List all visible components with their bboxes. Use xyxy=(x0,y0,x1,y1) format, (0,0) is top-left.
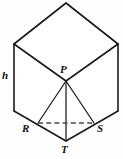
geometry-figure: h P R S T xyxy=(0,0,123,159)
label-vertex-p: P xyxy=(60,64,67,75)
label-vertex-r: R xyxy=(22,123,29,134)
label-vertex-s: S xyxy=(97,123,103,134)
label-vertex-t: T xyxy=(61,144,68,155)
figure-canvas xyxy=(0,0,123,159)
label-height-h: h xyxy=(2,70,8,81)
